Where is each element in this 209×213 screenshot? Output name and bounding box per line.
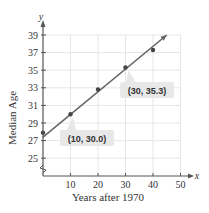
x-axis-title: Years after 1970	[72, 191, 145, 203]
y-tick-label: 25	[28, 153, 38, 164]
data-point	[151, 48, 155, 52]
y-tick-label: 35	[28, 65, 38, 76]
y-tick-label: 39	[28, 30, 38, 41]
callout: (10, 30.0)	[60, 117, 114, 146]
callout-pointer	[126, 71, 136, 83]
callout: (30, 35.3)	[120, 71, 174, 98]
x-tick-label: 20	[93, 179, 103, 190]
y-tick-label: 29	[28, 118, 38, 129]
y-axis-variable: y	[38, 11, 44, 22]
callout-label: (10, 30.0)	[68, 134, 107, 144]
data-point	[96, 87, 100, 91]
grid-lines	[43, 35, 181, 176]
y-tick-label: 31	[28, 100, 38, 111]
chart: (10, 30.0)(30, 35.3) 2527293133353739 10…	[0, 0, 209, 213]
y-tick-label: 33	[28, 82, 38, 93]
data-point	[123, 65, 127, 69]
callout-label: (30, 35.3)	[128, 86, 167, 96]
data-point	[68, 112, 72, 116]
x-axis-arrow-icon	[188, 174, 194, 179]
x-axis-variable: x	[194, 170, 200, 181]
x-tick-label: 10	[66, 179, 76, 190]
axes	[40, 20, 194, 179]
x-tick-label: 50	[176, 179, 186, 190]
y-tick-label: 27	[28, 135, 38, 146]
y-axis-title: Median Age	[6, 91, 18, 145]
x-tick-label: 30	[121, 179, 131, 190]
x-tick-label: 40	[148, 179, 158, 190]
y-tick-label: 37	[28, 47, 38, 58]
